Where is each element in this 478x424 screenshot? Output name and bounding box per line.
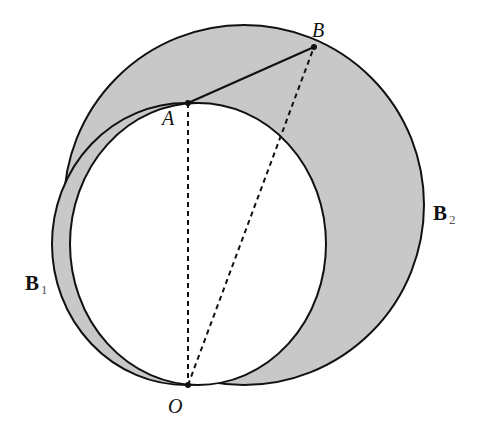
diagram-canvas: A B O B1 B2 (0, 0, 478, 424)
label-b2: B2 (433, 203, 456, 226)
point-b-dot (311, 44, 317, 50)
label-b1: B1 (25, 273, 48, 296)
label-b: B (312, 20, 324, 40)
point-o-dot (185, 382, 191, 388)
label-o: O (168, 396, 182, 416)
point-a-dot (185, 100, 191, 106)
inner-white-circle (70, 103, 326, 385)
geometry-figure (0, 0, 478, 424)
label-a: A (162, 108, 174, 128)
